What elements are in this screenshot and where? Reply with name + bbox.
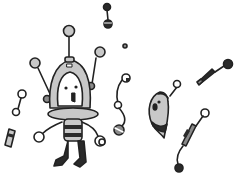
robot bbox=[30, 26, 105, 168]
robot-body bbox=[64, 119, 82, 141]
ghost-creature bbox=[149, 81, 180, 139]
illustration-canvas: Black-and-white cartoon illustration of … bbox=[0, 0, 245, 183]
floating-beads bbox=[5, 4, 233, 173]
cartoon-illustration bbox=[0, 0, 245, 183]
